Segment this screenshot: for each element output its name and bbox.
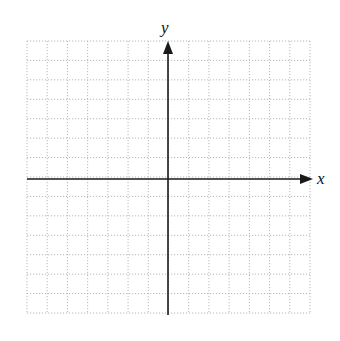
x-axis-arrow-icon xyxy=(300,174,313,184)
y-axis-label: y xyxy=(159,18,169,37)
x-axis-label: x xyxy=(316,169,325,188)
y-axis-arrow-icon xyxy=(163,41,173,54)
coordinate-plane: x y xyxy=(0,0,340,341)
